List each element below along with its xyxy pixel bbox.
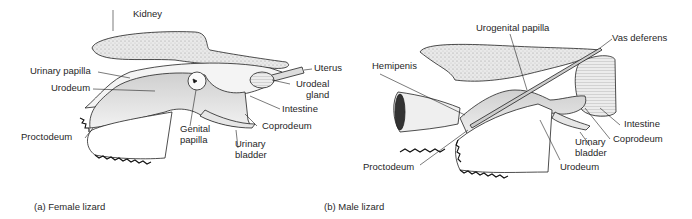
label-urogenital-papilla: Urogenital papilla	[476, 23, 549, 34]
label-intestine: Intestine	[624, 119, 660, 130]
label-genital-papilla: Genital papilla	[180, 124, 210, 145]
urinary-bladder-shape	[552, 112, 590, 130]
caption-male: (b) Male lizard	[324, 201, 384, 212]
label-proctodeum: Proctodeum	[21, 132, 72, 143]
label-urinary-bladder: Urinary bladder	[235, 139, 267, 160]
caption-female: (a) Female lizard	[34, 201, 105, 212]
label-urinary-bladder: Urinary bladder	[575, 137, 607, 158]
label-urodeum: Urodeum	[51, 83, 90, 94]
label-uterus: Uterus	[314, 63, 342, 74]
label-proctodeum: Proctodeum	[363, 162, 414, 173]
urodeal-gland	[250, 72, 274, 88]
label-intestine: Intestine	[282, 104, 318, 115]
label-vas-deferens: Vas deferens	[612, 33, 667, 44]
label-kidney: Kidney	[133, 9, 162, 20]
label-urodeal-gland: Urodeal gland	[296, 79, 329, 100]
kidney-shape	[420, 44, 600, 81]
kidney-shape	[92, 32, 289, 69]
label-coprodeum: Coprodeum	[262, 121, 312, 132]
label-urodeum: Urodeum	[560, 162, 599, 173]
label-coprodeum: Coprodeum	[613, 134, 663, 145]
diagram-artwork	[0, 0, 692, 219]
label-urinary-papilla: Urinary papilla	[30, 66, 91, 77]
label-hemipenis: Hemipenis	[372, 61, 417, 72]
